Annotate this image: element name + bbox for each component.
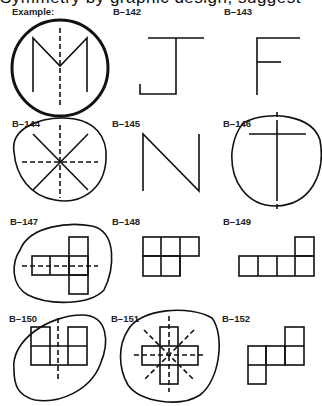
- b143-figure: [257, 38, 300, 95]
- b151-figure: [121, 310, 220, 402]
- b146-figure: [232, 112, 321, 210]
- figures-drawing: [0, 0, 322, 406]
- b149-figure: [239, 237, 314, 276]
- b150-figure: [14, 315, 106, 401]
- b152-figure: [248, 327, 304, 384]
- b147-figure: [14, 225, 112, 303]
- b142-figure: [140, 38, 204, 94]
- example-figure: [12, 20, 108, 116]
- b144-figure: [14, 118, 107, 201]
- b148-figure: [143, 237, 199, 276]
- b145-figure: [143, 134, 199, 191]
